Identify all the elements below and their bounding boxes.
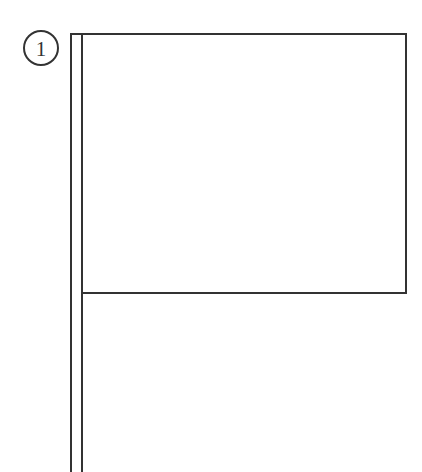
flag-banner-outline <box>71 34 406 293</box>
flag-diagram: 1 <box>0 0 422 472</box>
figure-canvas: 1 <box>0 0 422 472</box>
callout-number-label: 1 <box>36 37 47 61</box>
